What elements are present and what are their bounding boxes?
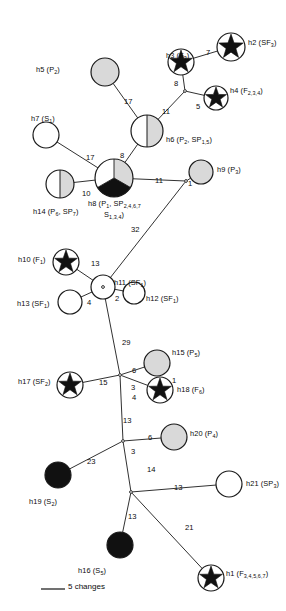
label-h10: h10 (F1) (18, 256, 46, 263)
label-h21: h21 (SP3) (246, 480, 279, 487)
edge-weight-j_h9-j_h11: 32 (131, 226, 139, 234)
label-h8: h8 (P1, SP2,4,6,7 (88, 200, 141, 207)
label-h14: h14 (P6, SP7) (33, 208, 79, 215)
node-h2[interactable] (217, 33, 245, 61)
edge-weight-j_low-h20: 6 (148, 434, 152, 442)
edge-j_h3h4-h4 (186, 91, 204, 95)
label-h4: h4 (F2,3,4) (230, 87, 263, 94)
edge-weight-h3-h2: 7 (206, 49, 210, 57)
edge-weight-j_h9-h9: 1 (188, 180, 192, 188)
node-h8[interactable] (95, 159, 133, 197)
edge-weight-j_low-j_bot: 14 (147, 466, 155, 474)
edge-weight-h7-h8: 17 (86, 154, 94, 162)
label-h19: h19 (S2) (29, 498, 57, 505)
edge-weight-j_h11-j_mid: 29 (122, 339, 130, 347)
label-h12: h12 (SF1) (146, 295, 179, 302)
node-h17[interactable] (57, 372, 83, 398)
edge-weight-h6-h8: 8 (120, 152, 124, 160)
node-h9[interactable] (189, 160, 213, 184)
edge-weight-j_h11-h12: 2 (115, 295, 119, 303)
edge-weight-j_mid-h15: 6 (132, 367, 136, 375)
edge-weight-j_mid-j_low: 13 (123, 417, 131, 425)
label-h6: h6 (P2, SP1,5) (166, 136, 212, 143)
edge-h14-h8 (74, 180, 95, 182)
edge-weight-j_h3h4-h4: 5 (196, 103, 200, 111)
label-h3: h3 (F3) (166, 52, 189, 59)
node-layer (33, 33, 245, 591)
junction-j_bot[interactable] (130, 491, 133, 494)
junction-j_mid[interactable] (119, 374, 122, 377)
edge-h6-h8 (125, 144, 138, 162)
label-h8b: S1,3,4) (104, 211, 124, 218)
node-h7[interactable] (33, 122, 59, 148)
label-h2: h2 (SF3) (248, 39, 276, 46)
label-h18: h18 (F6) (177, 386, 205, 393)
edge-weight-h13-j_h11: 4 (87, 299, 91, 307)
edge-weight-j_bot-h21: 13 (174, 484, 182, 492)
junction-j_h9[interactable] (185, 180, 188, 183)
label-h9: h9 (P3) (217, 166, 241, 173)
node-h16[interactable] (107, 532, 133, 558)
edge-weight-h19-j_low: 23 (87, 458, 95, 466)
legend-scale-bar-icon (40, 582, 66, 594)
label-h1: h1 (F3,4,5,6,7) (226, 570, 268, 577)
node-h6[interactable] (131, 115, 163, 147)
node-h4[interactable] (204, 86, 228, 110)
label-h17: h17 (SF2) (18, 378, 51, 385)
label-h5: h5 (P2) (36, 66, 60, 73)
edge-weight-h10-j_h11: 13 (91, 260, 99, 268)
edge-weight-h3-j_h3h4: 8 (174, 80, 178, 88)
edge-j_mid-j_low (120, 376, 123, 439)
edge-weight-h17-j_mid: 15 (99, 379, 107, 387)
edge-weight-h5-h6: 17 (124, 98, 132, 106)
junction-j_low[interactable] (122, 440, 125, 443)
node-h13[interactable] (58, 290, 82, 314)
junction-weight-2: 3 (131, 448, 135, 456)
edge-weight-h8-j_h9: 11 (155, 177, 163, 185)
label-h13: h13 (SF1) (17, 300, 50, 307)
junction-j_h11[interactable] (102, 286, 105, 289)
node-h18[interactable] (147, 377, 173, 403)
edge-weight-j_h3h4-h6: 11 (162, 108, 170, 116)
edge-weight-j_mid-h18: 4 (132, 394, 136, 402)
node-h15[interactable] (144, 350, 170, 376)
label-h7: h7 (S1) (31, 115, 55, 122)
label-h11: h11 (SF1) (114, 279, 146, 286)
label-h15: h15 (P5) (172, 349, 200, 356)
edge-j_low-h20 (124, 438, 161, 441)
edge-h3-j_h3h4 (183, 75, 185, 90)
node-h14[interactable] (46, 170, 74, 198)
node-h21[interactable] (216, 471, 242, 497)
junction-j_h3h4[interactable] (184, 90, 187, 93)
node-h5[interactable] (91, 58, 119, 86)
label-h16: h16 (S5) (78, 567, 106, 574)
edge-j_h9-j_h11 (104, 182, 185, 286)
edge-weight-j_bot-h16: 13 (128, 513, 136, 521)
node-h19[interactable] (45, 462, 71, 488)
edge-weight-h14-h8: 10 (82, 190, 90, 198)
node-h10[interactable] (53, 249, 79, 275)
label-h20: h20 (P4) (190, 430, 218, 437)
edge-j_low-j_bot (123, 442, 131, 490)
edge-weight-j_bot-h1: 21 (185, 524, 193, 532)
legend-label: 5 changes (68, 583, 105, 591)
node-h1[interactable] (198, 565, 224, 591)
edge-h19-j_low (70, 442, 122, 469)
junction-weight-1: 3 (131, 384, 135, 392)
junction-weight-0: 1 (172, 377, 176, 385)
node-h20[interactable] (161, 424, 187, 450)
